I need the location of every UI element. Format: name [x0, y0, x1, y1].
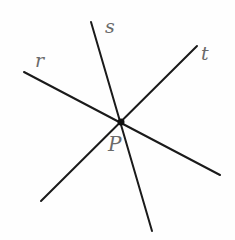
label-p: P [107, 132, 122, 156]
label-r: r [35, 49, 46, 71]
diagram-canvas: r s t P [0, 0, 235, 240]
line-s [91, 22, 152, 231]
label-s: s [105, 15, 115, 37]
lines-diagram: r s t P [0, 0, 235, 240]
label-t: t [201, 42, 209, 64]
intersection-point-p [118, 119, 125, 126]
